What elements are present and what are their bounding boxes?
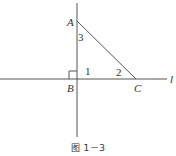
angle-2-label: 2	[116, 66, 122, 78]
right-angle-marker	[69, 71, 77, 79]
angle-1-label: 1	[85, 65, 91, 77]
label-line-l: l	[170, 73, 173, 85]
angle-3-label: 3	[78, 31, 84, 43]
geometry-figure: A B C l 3 1 2	[0, 0, 176, 156]
label-a: A	[66, 16, 74, 28]
label-b: B	[67, 82, 74, 94]
label-c: C	[134, 82, 142, 94]
figure-caption: 图 1－3	[0, 141, 176, 154]
